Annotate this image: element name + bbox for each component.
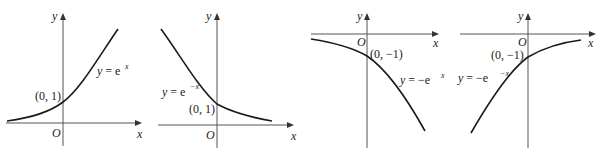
origin-label: O (206, 128, 215, 142)
origin-label: O (357, 35, 366, 49)
point-label: (0, −1) (491, 48, 524, 62)
equation-exponent: x (124, 62, 129, 71)
y-axis-arrow-icon (60, 13, 66, 20)
y-axis-arrow-icon (364, 13, 370, 20)
point-label: (0, −1) (370, 47, 403, 61)
origin-label: O (518, 35, 527, 49)
equation-exponent: x (440, 71, 445, 80)
equation-label: y = −e (399, 73, 430, 87)
equation-exponent: −x (500, 69, 509, 78)
x-axis-label: x (136, 127, 143, 141)
graph-neg-exp: y x O (0, −1) y = −e x (311, 9, 445, 148)
y-axis-arrow-icon (525, 13, 531, 20)
equation-exponent: −x (190, 82, 199, 91)
x-axis-label: x (290, 129, 297, 143)
curve-neg-exp-neg (471, 40, 581, 133)
x-axis-arrow-icon (287, 122, 294, 128)
point-label: (0, 1) (35, 89, 61, 103)
y-axis-label: y (51, 9, 58, 23)
point-label: (0, 1) (189, 102, 215, 116)
origin-label: O (52, 126, 61, 140)
graph-exp: y x O (0, 1) y = e x (6, 9, 143, 146)
y-axis-label: y (356, 9, 363, 23)
y-axis-label: y (205, 9, 212, 23)
y-axis-arrow-icon (214, 13, 220, 20)
equation-label: y = −e (457, 71, 488, 85)
y-axis-label: y (517, 9, 524, 23)
graph-neg-exp-neg: y x O (0, −1) y = −e −x (457, 9, 596, 148)
x-axis-label: x (432, 36, 439, 50)
equation-label: y = e (161, 85, 185, 99)
graph-exp-neg: y x O (0, 1) y = e −x (158, 9, 297, 148)
equation-label: y = e (96, 64, 120, 78)
x-axis-arrow-icon (135, 120, 142, 126)
x-axis-label: x (587, 36, 594, 50)
exponential-graphs: y x O (0, 1) y = e x y x O (0, 1) y = e … (0, 0, 602, 153)
